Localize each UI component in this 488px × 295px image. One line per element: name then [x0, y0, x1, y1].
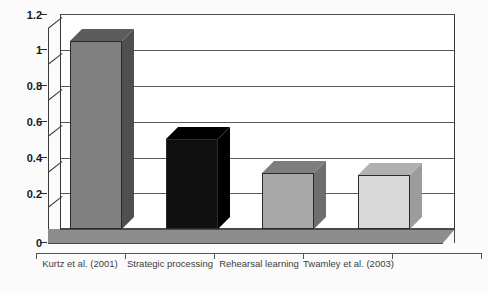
- floor-front-face: [48, 229, 443, 244]
- bar-front-face: [70, 41, 122, 229]
- bar-front-face: [358, 175, 410, 229]
- y-tick-mark-0.4: [40, 157, 47, 158]
- bar-twamley-2003[interactable]: [358, 14, 410, 229]
- bar-side-face: [122, 29, 134, 229]
- y-tick-mark-0.2: [40, 193, 47, 194]
- bar-strategic-processing[interactable]: [166, 14, 218, 229]
- y-tick-mark-1: [40, 49, 47, 50]
- chart-title-remnant: [150, 0, 340, 4]
- x-axis-label-rehearsal-learning: Rehearsal learning: [215, 258, 303, 270]
- y-tick-label-1.2: 1.2: [8, 10, 42, 20]
- chart-figure: 1.2 1 0.8 0.6 0.4 0.2 0: [0, 0, 488, 295]
- y-tick-mark-1.2: [40, 14, 47, 15]
- y-tick-label-1: 1: [8, 45, 42, 55]
- plot-right-border: [454, 14, 455, 229]
- bar-kurtz-2001[interactable]: [70, 14, 122, 229]
- y-tick-label-0.8: 0.8: [8, 81, 42, 91]
- y-tick-label-0.4: 0.4: [8, 153, 42, 163]
- y-tick-label-0.2: 0.2: [8, 189, 42, 199]
- y-tick-mark-0.6: [40, 121, 47, 122]
- y-axis-front-line: [48, 28, 49, 243]
- y-tick-label-0.6: 0.6: [8, 117, 42, 127]
- plot-area: [48, 14, 455, 243]
- floor-right-edge: [454, 229, 455, 243]
- bar-side-face: [218, 127, 230, 229]
- bar-rehearsal-learning[interactable]: [262, 14, 314, 229]
- y-axis-labels: 1.2 1 0.8 0.6 0.4 0.2 0: [4, 0, 42, 295]
- y-tick-mark-0: [40, 242, 47, 243]
- x-axis-label-twamley-2003: Twamley et al. (2003): [296, 258, 401, 270]
- floor-top-edge: [60, 229, 455, 230]
- y-tick-label-0: 0: [8, 238, 42, 248]
- bar-front-face: [166, 139, 218, 229]
- x-axis-label-kurtz-2001: Kurtz et al. (2001): [34, 258, 126, 270]
- x-tick-5: [481, 253, 482, 259]
- y-tick-mark-0.8: [40, 85, 47, 86]
- bar-front-face: [262, 173, 314, 229]
- x-axis-line: [36, 253, 482, 254]
- x-axis-label-strategic-processing: Strategic processing: [126, 258, 214, 270]
